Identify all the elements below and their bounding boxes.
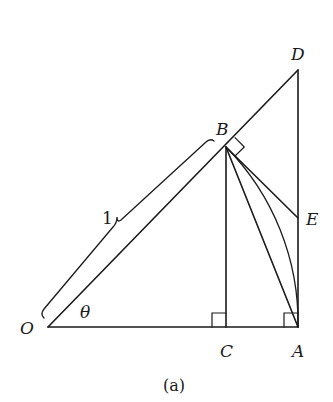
label-O: O bbox=[20, 318, 34, 338]
brace-OB bbox=[42, 140, 214, 318]
geometry-diagram: O A C B D E θ 1 (a) bbox=[0, 0, 333, 402]
right-angle-mark-B bbox=[235, 138, 244, 156]
label-radius-one: 1 bbox=[102, 208, 113, 228]
segment-BE bbox=[226, 147, 298, 218]
chord-BA bbox=[226, 147, 298, 327]
label-E: E bbox=[305, 209, 319, 229]
label-D: D bbox=[290, 44, 305, 64]
label-theta: θ bbox=[80, 302, 90, 322]
label-C: C bbox=[220, 341, 233, 361]
segment-OD bbox=[48, 70, 298, 327]
figure-caption: (a) bbox=[163, 376, 185, 395]
label-A: A bbox=[290, 341, 304, 361]
right-angle-mark-C bbox=[212, 313, 226, 327]
label-B: B bbox=[215, 119, 229, 139]
